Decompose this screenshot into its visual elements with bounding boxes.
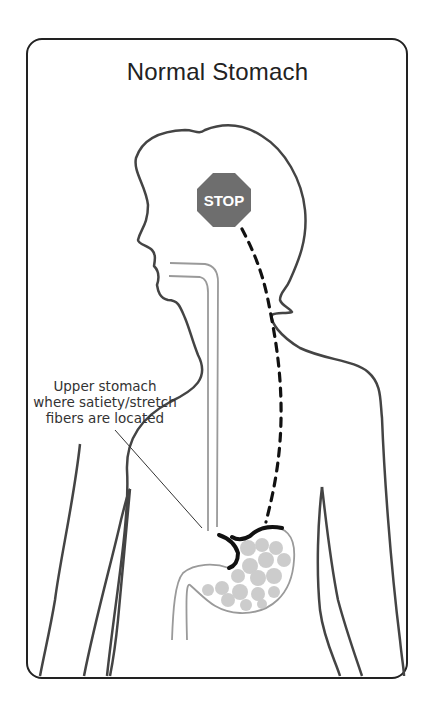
vagus-nerve-dashed-icon [242, 229, 281, 522]
upper-stomach-annotation: Upper stomach where satiety/stretch fibe… [20, 378, 190, 426]
svg-text:STOP: STOP [204, 192, 245, 209]
left-arm-line-icon [40, 444, 80, 676]
stop-sign-icon: STOP [197, 173, 251, 227]
satiety-fibers-upper-icon [232, 527, 282, 539]
left-torso-line-icon [110, 489, 130, 676]
anatomy-illustration: STOP [0, 0, 435, 718]
right-torso-peak-icon [318, 487, 340, 676]
right-torso-line-icon [322, 487, 362, 676]
annotation-line-1: Upper stomach [20, 378, 190, 394]
annotation-line-2: where satiety/stretch [20, 394, 190, 410]
left-torso-peak-icon [84, 489, 130, 676]
duodenum-icon [172, 565, 229, 640]
annotation-line-3: fibers are located [20, 410, 190, 426]
